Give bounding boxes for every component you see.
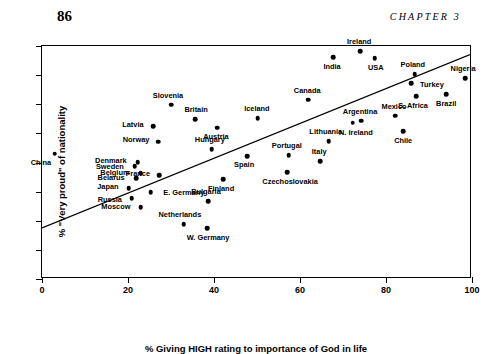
data-point xyxy=(151,124,156,129)
data-point xyxy=(205,226,210,231)
x-axis-tick xyxy=(214,277,215,283)
data-point-label: Brazil xyxy=(436,100,456,108)
data-point-label: France xyxy=(126,170,150,178)
data-point xyxy=(331,55,336,60)
y-axis-tick xyxy=(36,104,42,105)
x-axis-tick-label: 80 xyxy=(366,285,406,295)
data-point xyxy=(182,222,187,227)
data-point-label: Japan xyxy=(97,183,118,191)
data-point-label: Latvia xyxy=(122,121,143,129)
data-point-label: Chile xyxy=(394,137,412,145)
data-point xyxy=(393,114,398,119)
data-point xyxy=(139,205,144,210)
data-point xyxy=(210,147,215,152)
data-point xyxy=(285,170,290,175)
x-axis-tick-label: 40 xyxy=(194,285,234,295)
data-point xyxy=(245,154,250,159)
data-point xyxy=(157,173,162,178)
data-point-label: Iceland xyxy=(244,105,269,113)
data-point xyxy=(327,139,332,144)
x-axis-tick-label: 60 xyxy=(280,285,320,295)
data-point-label: Finland xyxy=(208,185,234,193)
data-point-label: Netherlands xyxy=(159,211,202,219)
data-point-label: Austria xyxy=(203,133,228,141)
scatter-plot: ChinaDenmarkSwedenBelgiumBelarusFranceJa… xyxy=(41,45,471,278)
data-point-label: Portugal xyxy=(272,142,302,150)
data-point xyxy=(306,98,311,103)
data-point xyxy=(359,119,364,124)
plot-area: ChinaDenmarkSwedenBelgiumBelarusFranceJa… xyxy=(42,46,470,277)
x-axis-tick xyxy=(128,277,129,283)
x-axis-tick-label: 20 xyxy=(108,285,148,295)
data-point xyxy=(413,72,418,77)
data-point xyxy=(401,129,406,134)
x-axis-tick-label: 100 xyxy=(452,285,485,295)
data-point xyxy=(193,117,198,122)
data-point-label: S. Africa xyxy=(398,102,428,110)
data-point-label: USA xyxy=(368,64,384,72)
x-axis-tick xyxy=(300,277,301,283)
data-point-label: Norway xyxy=(123,136,150,144)
data-point-label: Czechoslovakia xyxy=(262,178,317,186)
y-axis-tick xyxy=(36,133,42,134)
data-point xyxy=(444,92,449,97)
y-axis-tick xyxy=(36,46,42,47)
data-point xyxy=(358,49,363,54)
data-point-label: Slovenia xyxy=(153,92,183,100)
x-axis-tick-label: 0 xyxy=(22,285,62,295)
data-point xyxy=(318,159,323,164)
data-point-label: India xyxy=(323,63,340,71)
y-axis-tick xyxy=(36,163,42,164)
data-point-label: Poland xyxy=(400,61,425,69)
x-axis-tick xyxy=(472,277,473,283)
data-point-label: Moscow xyxy=(101,203,130,211)
data-point xyxy=(373,56,378,61)
data-point xyxy=(148,190,153,195)
data-point xyxy=(351,121,356,126)
page-number: 86 xyxy=(57,8,72,25)
data-point-label: Lithuania xyxy=(309,128,342,136)
y-axis-title: % "Very proud" of nationality xyxy=(56,57,67,287)
x-axis-tick xyxy=(42,277,43,283)
data-point xyxy=(169,103,174,108)
data-point-label: W. Germany xyxy=(187,234,230,242)
data-point-label: Ireland xyxy=(347,38,371,46)
x-axis-title: % Giving HIGH rating to importance of Go… xyxy=(42,343,470,354)
data-point-label: N. Ireland xyxy=(339,129,373,137)
data-point xyxy=(287,153,292,158)
chapter-label: CHAPTER 3 xyxy=(390,11,461,22)
y-axis-tick xyxy=(36,250,42,251)
data-point-label: Nigeria xyxy=(451,65,476,73)
data-point xyxy=(127,186,132,191)
data-point xyxy=(409,81,414,86)
data-point-label: Canada xyxy=(294,87,321,95)
data-point xyxy=(133,164,138,169)
data-point xyxy=(256,116,261,121)
data-point xyxy=(156,140,161,145)
y-axis-tick xyxy=(36,221,42,222)
x-axis-tick xyxy=(386,277,387,283)
data-point-label: Britain xyxy=(184,106,207,114)
data-point-label: Spain xyxy=(234,161,254,169)
data-point-label: Italy xyxy=(312,148,327,156)
data-point xyxy=(206,199,211,204)
data-point-label: Turkey xyxy=(420,81,444,89)
y-axis-tick xyxy=(36,192,42,193)
data-point xyxy=(221,177,226,182)
data-point xyxy=(414,94,419,99)
data-point xyxy=(215,126,220,131)
data-point xyxy=(130,196,135,201)
y-axis-tick xyxy=(36,75,42,76)
data-point-label: Belarus xyxy=(98,174,125,182)
data-point-label: Argentina xyxy=(343,108,378,116)
data-point xyxy=(463,76,468,81)
